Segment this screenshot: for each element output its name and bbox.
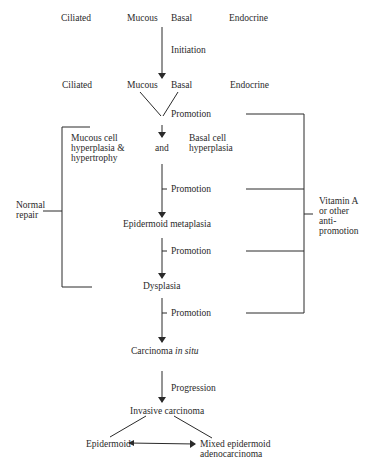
cell-mucous-1: Mucous [127,13,158,23]
promotion-label-3: Promotion [171,246,211,256]
basal-hyperplasia-label: Basal cell hyperplasia [189,133,233,153]
cell-mucous-2: Mucous [127,80,158,90]
invasive-carcinoma-label: Invasive carcinoma [130,406,204,416]
promotion-label-2: Promotion [171,184,211,194]
progression-label: Progression [171,383,216,393]
vitamin-a-label: Vitamin A or other anti- promotion [319,196,359,236]
promotion-label-1: Promotion [171,109,211,119]
cell-basal-2: Basal [171,80,192,90]
epidermoid-label: Epidermoid [86,439,131,449]
diagram-lines [0,0,373,470]
carcinoma-in-situ-label: Carcinoma in situ [131,346,199,356]
cell-endocrine-1: Endocrine [229,13,268,23]
cell-ciliated-2: Ciliated [62,80,92,90]
carcinogenesis-diagram: Ciliated Mucous Basal Endocrine Initiati… [0,0,373,470]
promotion-label-4: Promotion [171,308,211,318]
cell-ciliated-1: Ciliated [61,13,91,23]
dysplasia-label: Dysplasia [143,281,180,291]
cell-basal-1: Basal [171,13,192,23]
mucous-hyperplasia-label: Mucous cell hyperplasia & hypertrophy [71,133,125,163]
and-label: and [155,143,169,153]
epidermoid-metaplasia-label: Epidermoid metaplasia [123,219,211,229]
cell-endocrine-2: Endocrine [230,80,269,90]
initiation-label: Initiation [171,45,206,55]
mixed-adenocarcinoma-label: Mixed epidermoid adenocarcinoma [200,439,270,459]
normal-repair-label: Normal repair [16,200,45,220]
